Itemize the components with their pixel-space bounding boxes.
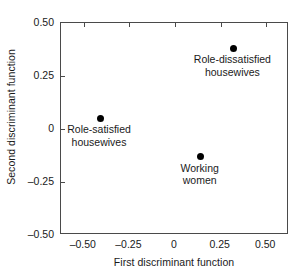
y-axis-tick xyxy=(60,182,65,183)
annotation-line-1: Role-satisfied xyxy=(67,123,131,136)
annotation-line-2: housewives xyxy=(67,136,131,149)
data-point-annotation: Role-satisfiedhousewives xyxy=(67,123,131,148)
x-axis-tick xyxy=(175,22,176,27)
x-axis-tick xyxy=(266,22,267,27)
x-axis-tick-label: 0.25 xyxy=(197,238,243,250)
annotation-line-1: Role-dissatisfied xyxy=(194,53,271,66)
x-axis-title: First discriminant function xyxy=(60,256,288,268)
y-axis-tick xyxy=(60,129,65,130)
discriminant-function-scatter-plot: Second discriminant function First discr… xyxy=(0,0,306,278)
x-axis-tick-label: –0.50 xyxy=(60,238,106,250)
x-axis-tick xyxy=(84,22,85,27)
y-axis-tick-label: 0.25 xyxy=(14,69,54,81)
data-point[interactable] xyxy=(97,115,104,122)
annotation-line-1: Working xyxy=(181,162,219,175)
y-axis-tick-label: –0.50 xyxy=(14,228,54,240)
data-point[interactable] xyxy=(230,45,237,52)
y-axis-tick-label: 0.50 xyxy=(14,16,54,28)
x-axis-tick xyxy=(221,22,222,27)
y-axis-tick-label: –0.25 xyxy=(14,175,54,187)
annotation-line-2: housewives xyxy=(194,66,271,79)
annotation-line-2: women xyxy=(181,174,219,187)
x-axis-tick-label: 0.50 xyxy=(242,238,288,250)
y-axis-tick-label: 0 xyxy=(14,122,54,134)
x-axis-tick-label: 0 xyxy=(151,238,197,250)
y-axis-title: Second discriminant function xyxy=(0,0,22,234)
y-axis-tick xyxy=(60,76,65,77)
x-axis-tick xyxy=(129,22,130,27)
data-point-annotation: Role-dissatisfiedhousewives xyxy=(194,53,271,78)
x-axis-tick-label: –0.25 xyxy=(105,238,151,250)
data-point-annotation: Workingwomen xyxy=(181,162,219,187)
data-point[interactable] xyxy=(197,153,204,160)
